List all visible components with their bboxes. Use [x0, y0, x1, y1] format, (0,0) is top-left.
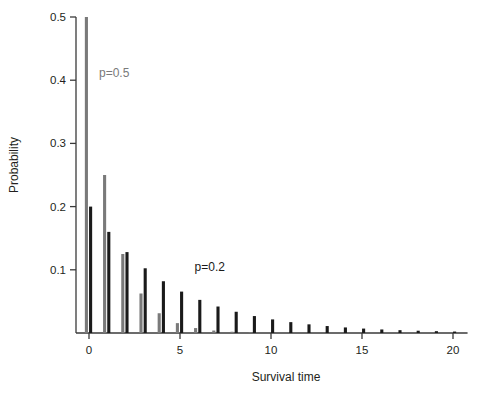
bar	[289, 322, 292, 333]
x-tick-label: 20	[447, 344, 460, 356]
bar	[249, 332, 252, 333]
bar	[194, 328, 197, 333]
bar	[362, 329, 365, 333]
chart-figure: 0.10.20.30.40.5 05101520 p=0.5p=0.2 Surv…	[0, 0, 479, 394]
bar	[216, 307, 219, 333]
bar	[326, 326, 329, 333]
bar	[235, 312, 238, 333]
bar	[85, 17, 88, 333]
bar	[107, 232, 110, 333]
series-annotation: p=0.2	[195, 260, 226, 274]
bar	[307, 324, 310, 333]
series-annotation: p=0.5	[99, 66, 130, 80]
bar	[417, 331, 420, 333]
bar	[158, 313, 161, 333]
bar	[125, 252, 128, 333]
bar-series-p02	[89, 207, 456, 333]
x-tick-label: 5	[177, 344, 183, 356]
y-tick-label: 0.3	[50, 137, 66, 149]
bar	[230, 332, 233, 333]
bar	[380, 329, 383, 333]
y-tick-label: 0.2	[50, 201, 66, 213]
bar	[453, 332, 456, 333]
series-annotations: p=0.5p=0.2	[99, 66, 225, 274]
bar	[89, 207, 92, 333]
bar	[212, 331, 215, 333]
x-tick-label: 10	[265, 344, 278, 356]
bar	[162, 281, 165, 333]
bar	[344, 327, 347, 333]
x-axis-title: Survival time	[252, 370, 321, 384]
bar	[198, 300, 201, 333]
bar	[176, 323, 179, 333]
y-tick-label: 0.4	[50, 74, 67, 86]
bar	[435, 331, 438, 333]
probability-bar-chart: 0.10.20.30.40.5 05101520 p=0.5p=0.2 Surv…	[0, 0, 479, 394]
bar	[398, 330, 401, 333]
y-tick-label: 0.5	[50, 11, 66, 23]
y-tick-label: 0.1	[50, 264, 66, 276]
y-axis: 0.10.20.30.40.5	[50, 11, 76, 333]
bar	[253, 316, 256, 333]
x-axis: 05101520	[76, 333, 468, 356]
bar	[180, 292, 183, 333]
bar	[144, 268, 147, 333]
x-tick-label: 0	[86, 344, 92, 356]
bar	[271, 319, 274, 333]
x-tick-label: 15	[356, 344, 369, 356]
bar	[121, 254, 124, 333]
bar	[139, 294, 142, 334]
y-axis-title: Probability	[7, 137, 21, 193]
bar	[103, 175, 106, 333]
